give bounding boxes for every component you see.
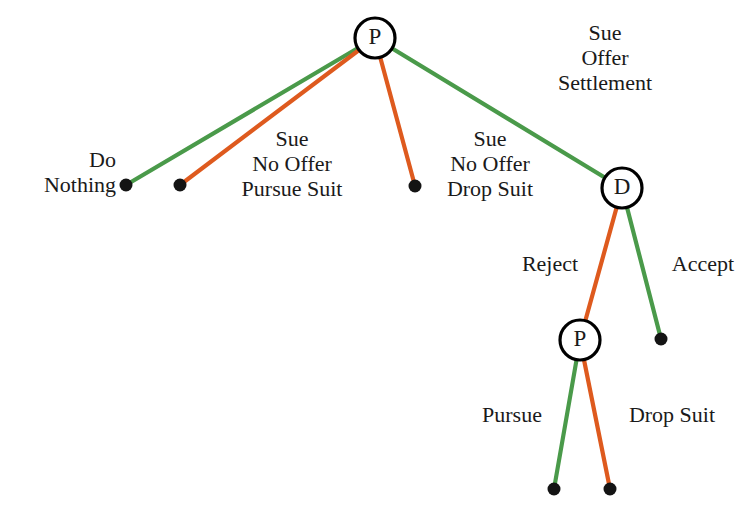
terminal-node-pursue-suit xyxy=(174,179,187,192)
edge-defendant-to-player2 xyxy=(580,188,622,340)
node-label-root: P xyxy=(369,24,382,49)
terminal-node-accept xyxy=(655,333,668,346)
edge-player2-to-drop-suit xyxy=(580,340,610,489)
edge-label-sue-offer-settlement: SueOfferSettlement xyxy=(558,20,652,95)
edge-label-do-nothing: DoNothing xyxy=(44,147,116,197)
node-label-defendant: D xyxy=(614,174,631,199)
edge-label-drop-suit: Drop Suit xyxy=(629,402,715,427)
edge-label-pursue: Pursue xyxy=(482,402,542,427)
edge-label-sue-no-offer-drop-suit: SueNo OfferDrop Suit xyxy=(447,126,533,201)
edge-label-sue-no-offer-pursue-suit: SueNo OfferPursue Suit xyxy=(242,126,343,201)
terminal-node-pursue xyxy=(548,483,561,496)
game-tree-diagram: P D P DoNothing SueNo OfferPursue Suit S… xyxy=(0,0,751,518)
edge-player2-to-pursue xyxy=(554,340,580,489)
edge-label-reject: Reject xyxy=(522,251,578,276)
terminal-node-drop-suit-2 xyxy=(604,483,617,496)
edge-defendant-to-accept xyxy=(622,188,661,339)
decision-node-defendant: D xyxy=(602,168,642,208)
decision-node-plaintiff-2: P xyxy=(560,320,600,360)
edge-label-accept: Accept xyxy=(672,251,734,276)
terminal-node-drop-suit xyxy=(409,180,422,193)
terminal-node-do-nothing xyxy=(120,179,133,192)
decision-node-root: P xyxy=(355,18,395,58)
node-label-plaintiff-2: P xyxy=(574,326,587,351)
edge-group xyxy=(126,38,661,489)
